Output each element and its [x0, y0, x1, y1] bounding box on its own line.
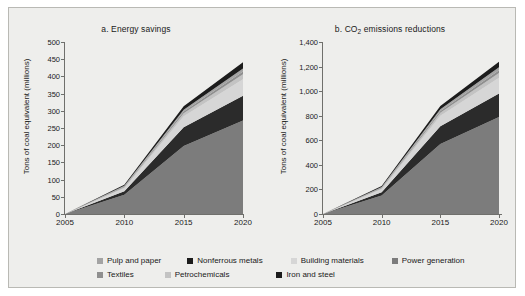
y-tick-mark — [319, 42, 323, 43]
x-tick-mark — [440, 214, 441, 218]
y-tick-label: 1,200 — [271, 62, 323, 71]
legend-swatch-icon — [291, 258, 297, 264]
x-tick-mark — [499, 214, 500, 218]
x-tick-label: 2005 — [56, 218, 74, 227]
y-tick-label: 400 — [271, 160, 323, 169]
chart-title-b-chem-sub: 2 — [358, 28, 362, 35]
plot-area-b: 02004006008001,0001,2001,400200520102015… — [323, 42, 499, 214]
x-tick-label: 2015 — [175, 218, 193, 227]
y-tick-mark — [61, 180, 65, 181]
y-tick-mark — [319, 91, 323, 92]
legend-swatch-icon — [165, 272, 171, 278]
legend-item-label: Nonferrous metals — [197, 256, 262, 265]
legend-item-label: Textiles — [107, 270, 134, 279]
x-tick-mark — [323, 214, 324, 218]
y-tick-mark — [61, 145, 65, 146]
legend-item-label: Building materials — [301, 256, 364, 265]
y-tick-mark — [319, 165, 323, 166]
x-tick-mark — [124, 214, 125, 218]
x-tick-mark — [184, 214, 185, 218]
legend-swatch-icon — [187, 258, 193, 264]
legend-row-top: Pulp and paperNonferrous metalsBuilding … — [9, 256, 515, 265]
plot-area-a: 0501001502002503003504004505002005201020… — [65, 42, 243, 214]
legend-item-label: Power generation — [402, 256, 465, 265]
legend-item-nonferrous-metals[interactable]: Nonferrous metals — [187, 256, 262, 265]
x-tick-mark — [65, 214, 66, 218]
chart-title-a: a. Energy savings — [9, 24, 263, 34]
y-tick-label: 300 — [13, 106, 65, 115]
y-tick-label: 800 — [271, 111, 323, 120]
chart-title-b-chem: CO — [345, 24, 358, 34]
legend-item-pulp-and-paper[interactable]: Pulp and paper — [97, 256, 161, 265]
y-tick-mark — [61, 162, 65, 163]
y-tick-mark — [61, 197, 65, 198]
legend-item-petrochemicals[interactable]: Petrochemicals — [165, 270, 230, 279]
y-tick-mark — [319, 140, 323, 141]
y-tick-label: 250 — [13, 124, 65, 133]
legend: Pulp and paperNonferrous metalsBuilding … — [9, 254, 515, 288]
legend-item-iron-and-steel[interactable]: Iron and steel — [276, 270, 334, 279]
y-tick-mark — [61, 76, 65, 77]
legend-item-power-generation[interactable]: Power generation — [392, 256, 465, 265]
y-tick-label: 400 — [13, 72, 65, 81]
y-tick-label: 1,400 — [271, 38, 323, 47]
chart-title-b-prefix: b. — [335, 24, 342, 34]
x-tick-label: 2020 — [234, 218, 252, 227]
chart-panel-co2-reductions: b. CO2 emissions reductions Tons of coal… — [263, 8, 517, 252]
x-tick-mark — [382, 214, 383, 218]
y-tick-label: 150 — [13, 158, 65, 167]
legend-item-label: Iron and steel — [286, 270, 334, 279]
y-tick-mark — [319, 67, 323, 68]
y-tick-label: 200 — [271, 185, 323, 194]
legend-item-building-materials[interactable]: Building materials — [291, 256, 364, 265]
y-tick-label: 1,000 — [271, 87, 323, 96]
legend-swatch-icon — [97, 272, 103, 278]
y-tick-label: 600 — [271, 136, 323, 145]
y-tick-label: 50 — [13, 192, 65, 201]
x-tick-label: 2010 — [115, 218, 133, 227]
legend-swatch-icon — [276, 272, 282, 278]
y-tick-label: 350 — [13, 89, 65, 98]
y-tick-mark — [61, 59, 65, 60]
y-tick-label: 500 — [13, 38, 65, 47]
x-tick-label: 2020 — [490, 218, 508, 227]
chart-title-b-main: emissions reductions — [364, 24, 445, 34]
legend-row-bottom: TextilesPetrochemicalsIron and steel — [9, 270, 515, 279]
y-tick-label: 450 — [13, 55, 65, 64]
legend-item-label: Pulp and paper — [107, 256, 161, 265]
y-tick-label: 100 — [13, 175, 65, 184]
y-tick-mark — [61, 42, 65, 43]
y-tick-mark — [61, 94, 65, 95]
x-tick-mark — [243, 214, 244, 218]
legend-swatch-icon — [97, 258, 103, 264]
legend-item-textiles[interactable]: Textiles — [97, 270, 134, 279]
stacked-area-a — [65, 42, 243, 215]
x-tick-label: 2015 — [431, 218, 449, 227]
y-tick-mark — [319, 116, 323, 117]
y-tick-mark — [319, 189, 323, 190]
figure-container: a. Energy savings Tons of coal equivalen… — [8, 7, 516, 288]
legend-item-label: Petrochemicals — [175, 270, 230, 279]
chart-title-a-text: a. Energy savings — [101, 24, 170, 34]
legend-swatch-icon — [392, 258, 398, 264]
y-tick-mark — [61, 128, 65, 129]
chart-panel-energy-savings: a. Energy savings Tons of coal equivalen… — [9, 8, 263, 252]
chart-title-b: b. CO2 emissions reductions — [263, 24, 517, 34]
y-tick-mark — [61, 111, 65, 112]
stacked-area-b — [323, 42, 499, 215]
x-tick-label: 2005 — [314, 218, 332, 227]
x-tick-label: 2010 — [373, 218, 391, 227]
y-tick-label: 200 — [13, 141, 65, 150]
